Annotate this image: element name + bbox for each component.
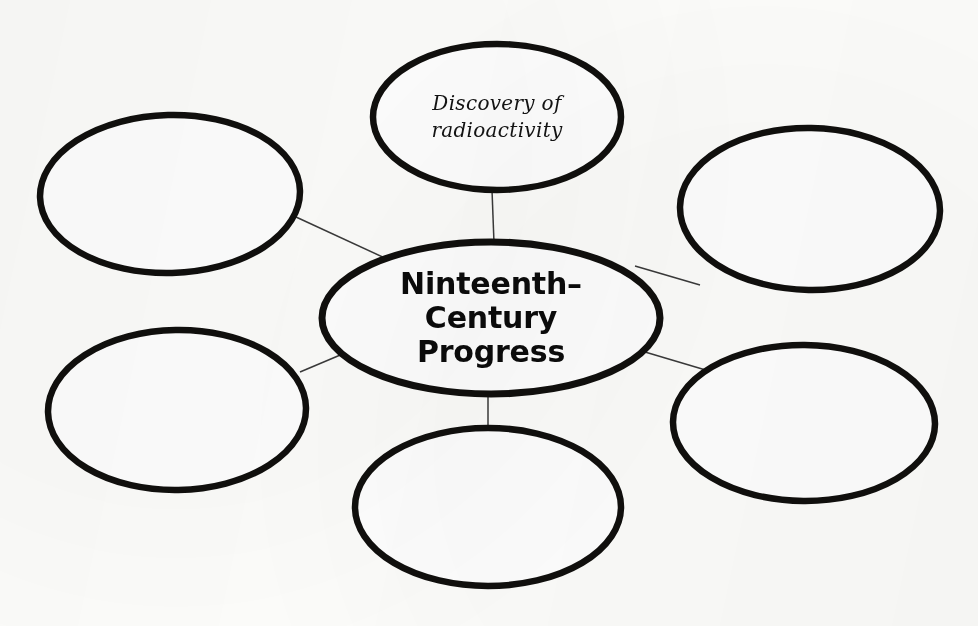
connector-center-to-top-left <box>296 217 387 259</box>
oval-top[interactable] <box>373 44 621 190</box>
oval-bottom[interactable] <box>355 428 621 586</box>
oval-top-right[interactable] <box>679 126 942 293</box>
concept-map-svg <box>0 0 978 626</box>
oval-bottom-left[interactable] <box>47 328 308 492</box>
connector-center-to-bottom-right <box>645 352 709 371</box>
oval-center-topic[interactable] <box>322 242 660 394</box>
oval-bottom-right[interactable] <box>672 344 935 502</box>
connector-center-to-top <box>492 190 494 243</box>
oval-top-left[interactable] <box>38 112 302 277</box>
concept-map-canvas: Ninteenth– Century Progress Discovery of… <box>0 0 978 626</box>
connector-center-to-bottom-left <box>300 353 345 372</box>
